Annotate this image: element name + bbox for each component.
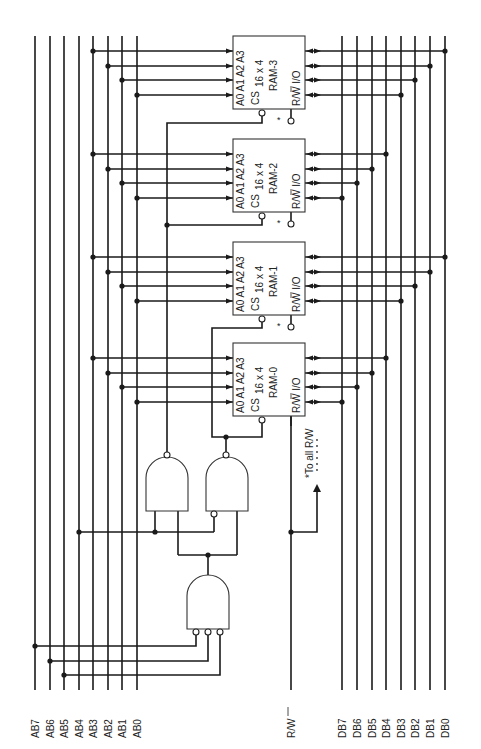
arrow-right-icon (226, 355, 233, 360)
arrow-left-icon (306, 254, 313, 259)
ram-name: RAM-0 (268, 366, 279, 398)
star-marker: * (277, 218, 281, 228)
and-gate-enable (187, 575, 229, 635)
arrow-left-icon (306, 370, 313, 375)
star-marker: * (277, 115, 281, 125)
rw-label: R/W (286, 718, 297, 738)
pin-rw-io-label: R/W I/O (291, 377, 302, 413)
junction-dot (119, 384, 124, 389)
inversion-bubble (164, 452, 170, 458)
inversion-bubble (217, 629, 223, 635)
junction-dot (398, 298, 403, 303)
pin-a-labels: A0 A1 A2 A3 (235, 357, 246, 413)
data-label-DB6: DB6 (352, 718, 363, 738)
arrow-right-icon (226, 399, 233, 404)
memory-circuit-diagram: A0 A1 A2 A3CS16 x 4RAM-3R/W I/O*A0 A1 A2… (0, 0, 481, 749)
pin-cs-label: CS (250, 194, 261, 208)
junction-dot (76, 529, 81, 534)
inversion-bubble (259, 110, 265, 116)
arrow-left-icon (306, 180, 313, 185)
data-label-DB0: DB0 (440, 718, 451, 738)
junction-dot (442, 254, 447, 259)
ram-name: RAM-2 (268, 162, 279, 194)
arrow-right-icon (314, 63, 321, 68)
inversion-bubble (288, 324, 294, 330)
junction-dot (369, 370, 374, 375)
arrow-right-icon (314, 77, 321, 82)
arrow-right-icon (226, 92, 233, 97)
inversion-bubble (223, 452, 229, 458)
ab6-wire (50, 635, 208, 661)
address-label-AB0: AB0 (132, 719, 143, 738)
arrow-right-icon (314, 166, 321, 171)
pin-a-labels: A0 A1 A2 A3 (235, 256, 246, 312)
nand-gate-2 (206, 452, 248, 517)
pin-cs-label: CS (250, 297, 261, 311)
ram-size: 16 x 4 (254, 366, 265, 394)
arrow-left-icon (306, 92, 313, 97)
junction-dot (90, 254, 95, 259)
arrow-left-icon (306, 355, 313, 360)
dots (316, 457, 318, 459)
arrow-right-icon (226, 283, 233, 288)
junction-dot (134, 298, 139, 303)
pin-rw-io-label: R/W I/O (291, 70, 302, 106)
dots (316, 439, 318, 441)
cs-ram0-wire (226, 420, 262, 452)
junction-dot (383, 151, 388, 156)
junction-dot (119, 180, 124, 185)
arrow-right-icon (226, 180, 233, 185)
ram-size: 16 x 4 (254, 59, 265, 87)
arrow-left-icon (306, 269, 313, 274)
inversion-bubble (211, 511, 217, 517)
inversion-bubble (288, 221, 294, 227)
arrow-right-icon (314, 370, 321, 375)
ram-name: RAM-1 (268, 265, 279, 297)
ab7-wire (35, 635, 196, 646)
arrow-left-icon (306, 399, 313, 404)
ram-size: 16 x 4 (254, 162, 265, 190)
inversion-bubble (259, 213, 265, 219)
dots (316, 445, 318, 447)
address-label-AB4: AB4 (74, 719, 85, 738)
arrow-right-icon (314, 48, 321, 53)
pin-cs-label: CS (250, 398, 261, 412)
ram-chip-ram-1: A0 A1 A2 A3CS16 x 4RAM-1R/W I/O* (233, 242, 305, 331)
junction-dot (427, 63, 432, 68)
junction-dot (354, 384, 359, 389)
address-label-AB2: AB2 (103, 719, 114, 738)
junction-dot (354, 180, 359, 185)
arrow-left-icon (306, 166, 313, 171)
arrow-right-icon (226, 370, 233, 375)
data-label-DB2: DB2 (410, 718, 421, 738)
arrow-left-icon (306, 151, 313, 156)
junction-dot (105, 166, 110, 171)
logic-gates (146, 452, 248, 635)
cs-ram2-wire (167, 216, 262, 225)
junction-dot (105, 63, 110, 68)
ram-chip-ram-0: A0 A1 A2 A3CS16 x 4RAM-0R/W I/O (233, 343, 305, 423)
junction-dot (369, 166, 374, 171)
arrow-left-icon (306, 77, 313, 82)
junction-dot (339, 195, 344, 200)
arrow-up-icon (313, 484, 321, 492)
dots (316, 451, 318, 453)
arrow-right-icon (226, 77, 233, 82)
junction-dot (47, 658, 52, 663)
junction-dot (427, 269, 432, 274)
pin-rw-io-label: R/W I/O (291, 173, 302, 209)
arrow-right-icon (226, 63, 233, 68)
arrow-left-icon (306, 283, 313, 288)
ram-chip-ram-3: A0 A1 A2 A3CS16 x 4RAM-3R/W I/O* (233, 36, 305, 125)
arrow-right-icon (314, 195, 321, 200)
address-label-AB7: AB7 (30, 719, 41, 738)
inversion-bubble (259, 316, 265, 322)
junction-dot (119, 77, 124, 82)
junction-dot (152, 529, 157, 534)
inversion-bubble (259, 417, 265, 423)
ram-name: RAM-3 (268, 59, 279, 91)
arrow-right-icon (226, 151, 233, 156)
pin-cs-label: CS (250, 91, 261, 105)
address-label-AB5: AB5 (59, 719, 70, 738)
pin-a-labels: A0 A1 A2 A3 (235, 50, 246, 106)
